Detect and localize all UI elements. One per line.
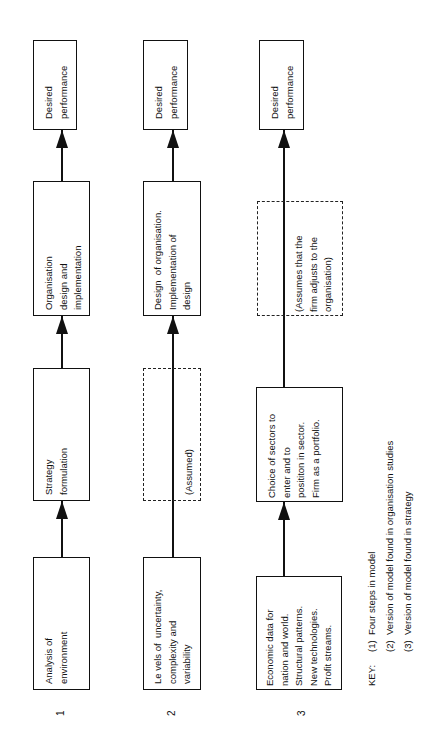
box-label: Le vels of uncertainty, complexity and v… [151, 590, 195, 684]
column-number: 1 [55, 710, 66, 716]
arrow-up-icon [56, 316, 68, 334]
key-item-3: (3) Version of model found in strategy [400, 491, 416, 652]
arrow-up-icon [278, 130, 290, 148]
design-of-organisation-box: Design of organisation. Implementation o… [143, 181, 201, 316]
arrow-up-icon [56, 130, 68, 148]
desired-performance-box: Desired performance [259, 40, 304, 130]
desired-performance-box: Desired performance [33, 40, 77, 130]
box-label: Design of organisation. Implementation o… [151, 210, 195, 310]
box-label: Strategy formulation [42, 448, 71, 495]
arrow-up-icon [56, 501, 68, 519]
box-label: Choice of sectors to enter and to positi… [265, 414, 323, 498]
box-label: Economic data for nation and world. Stru… [263, 606, 336, 686]
box-label: Organisation design and implementation [42, 246, 86, 310]
firm-adjusts-dashed-box: (Assumes that the firm adjusts to the or… [257, 201, 343, 316]
choice-of-sectors-box: Choice of sectors to enter and to positi… [256, 387, 343, 502]
analysis-environment-box: Analysis of environment [33, 557, 90, 690]
box-label: Analysis of environment [42, 632, 71, 684]
key-item-1: (1) Four steps in model [364, 552, 380, 652]
desired-performance-box: Desired performance [143, 40, 188, 130]
key-title: KEY: [364, 665, 380, 686]
key-item-2: (2) Version of model found in organisati… [382, 441, 398, 652]
strategy-formulation-box: Strategy formulation [33, 368, 90, 501]
box-label: (Assumed) [182, 449, 197, 495]
economic-data-box: Economic data for nation and world. Stru… [256, 576, 342, 690]
box-label: Desired performance [42, 66, 71, 119]
assumed-dashed-box: (Assumed) [143, 368, 201, 501]
arrow-up-icon [167, 316, 179, 334]
column-number: 2 [166, 710, 177, 716]
box-label: Desired performance [268, 66, 297, 119]
uncertainty-levels-box: Le vels of uncertainty, complexity and v… [143, 557, 201, 690]
box-label: (Assumes that the firm adjusts to the or… [292, 235, 336, 312]
arrow-up-icon [278, 502, 290, 520]
column-number: 3 [296, 710, 307, 716]
organisation-design-box: Organisation design and implementation [33, 181, 90, 316]
arrow-up-icon [167, 130, 179, 148]
box-label: Desired performance [152, 66, 181, 119]
